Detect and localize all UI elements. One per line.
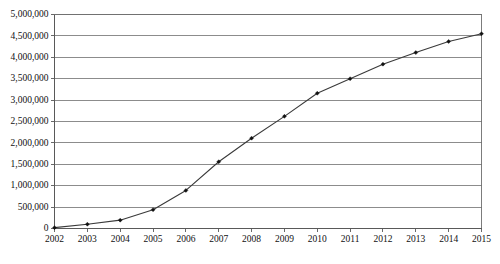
y-tick-label: 5,000,000 bbox=[11, 9, 49, 19]
x-tick-label: 2006 bbox=[176, 234, 195, 244]
y-tick-label: 3,500,000 bbox=[11, 73, 49, 83]
chart-canvas: 0500,0001,000,0001,500,0002,000,0002,500… bbox=[0, 0, 500, 264]
x-tick-label: 2008 bbox=[242, 234, 261, 244]
y-tick-label: 0 bbox=[44, 223, 49, 233]
chart-background bbox=[0, 0, 500, 264]
y-tick-label: 4,500,000 bbox=[11, 31, 49, 41]
y-tick-label: 1,000,000 bbox=[11, 180, 49, 190]
y-tick-label: 3,000,000 bbox=[11, 95, 49, 105]
x-tick-label: 2010 bbox=[308, 234, 327, 244]
x-tick-label: 2013 bbox=[406, 234, 425, 244]
x-tick-label: 2011 bbox=[341, 234, 360, 244]
x-tick-label: 2015 bbox=[472, 234, 491, 244]
y-tick-label: 2,500,000 bbox=[11, 116, 49, 126]
x-tick-label: 2009 bbox=[275, 234, 294, 244]
x-tick-label: 2007 bbox=[209, 234, 228, 244]
y-tick-label: 4,000,000 bbox=[11, 52, 49, 62]
x-tick-label: 2012 bbox=[373, 234, 392, 244]
x-tick-label: 2004 bbox=[111, 234, 130, 244]
y-tick-label: 2,000,000 bbox=[11, 138, 49, 148]
x-tick-label: 2014 bbox=[439, 234, 458, 244]
x-tick-label: 2003 bbox=[78, 234, 97, 244]
y-tick-label: 500,000 bbox=[18, 202, 49, 212]
x-tick-label: 2005 bbox=[144, 234, 163, 244]
y-tick-label: 1,500,000 bbox=[11, 159, 49, 169]
x-tick-label: 2002 bbox=[45, 234, 64, 244]
line-chart: 0500,0001,000,0001,500,0002,000,0002,500… bbox=[0, 0, 500, 264]
